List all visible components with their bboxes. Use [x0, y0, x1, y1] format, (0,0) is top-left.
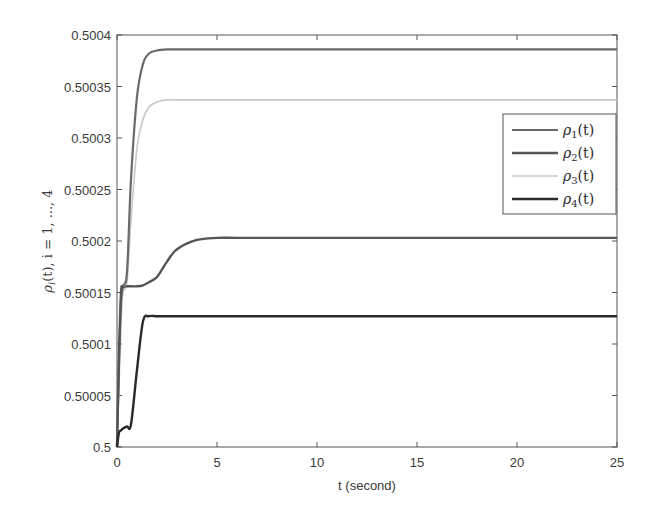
x-tick-label: 25	[610, 455, 624, 470]
x-axis-label: t (second)	[338, 478, 396, 493]
x-tick-label: 20	[510, 455, 524, 470]
legend-label: ρ4(t)	[562, 191, 594, 209]
y-tick-label: 0.5004	[71, 28, 111, 43]
line-chart: 0510152025 0.50.500050.50010.500150.5002…	[0, 0, 655, 522]
x-tick-label: 10	[310, 455, 324, 470]
legend-label: ρ2(t)	[562, 145, 594, 163]
x-tick-labels: 0510152025	[113, 455, 624, 470]
y-tick-labels: 0.50.500050.50010.500150.50020.500250.50…	[64, 28, 111, 455]
y-tick-label: 0.5001	[71, 337, 111, 352]
y-tick-label: 0.50015	[64, 286, 111, 301]
y-tick-label: 0.50025	[64, 183, 111, 198]
svg-text:ρi(t), i = 1, ..., 4: ρi(t), i = 1, ..., 4	[40, 189, 57, 293]
legend-label: ρ1(t)	[562, 122, 594, 140]
x-tick-label: 5	[213, 455, 220, 470]
x-tick-label: 15	[410, 455, 424, 470]
y-tick-label: 0.50035	[64, 80, 111, 95]
legend-label: ρ3(t)	[562, 168, 594, 186]
y-tick-label: 0.5	[93, 440, 111, 455]
y-tick-label: 0.5003	[71, 131, 111, 146]
y-tick-label: 0.50005	[64, 389, 111, 404]
y-tick-label: 0.5002	[71, 234, 111, 249]
y-axis-label: ρi(t), i = 1, ..., 4	[40, 189, 57, 293]
x-tick-label: 0	[113, 455, 120, 470]
legend: ρ1(t)ρ2(t)ρ3(t)ρ4(t)	[503, 114, 616, 214]
